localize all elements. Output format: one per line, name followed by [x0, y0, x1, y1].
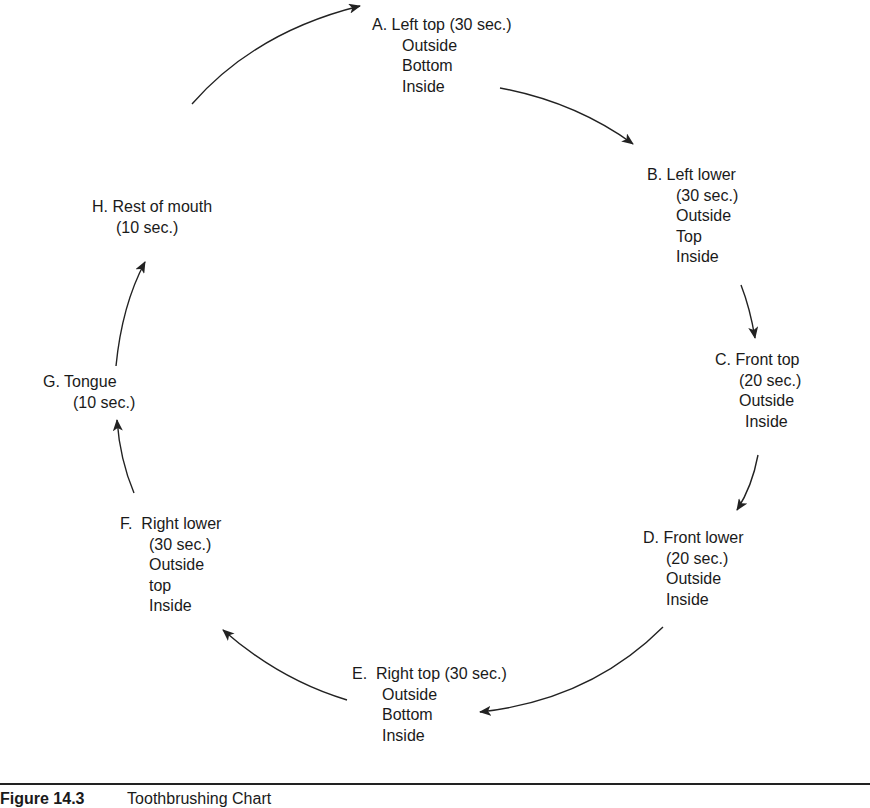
node-c-title: C. Front top — [715, 350, 801, 371]
node-b-step: Inside — [647, 247, 738, 268]
figure-title: Toothbrushing Chart — [127, 790, 271, 807]
node-a-step: Outside — [372, 36, 512, 57]
node-e-right-top: E. Right top (30 sec.) Outside Bottom In… — [352, 664, 507, 746]
arrow-c-to-d — [737, 455, 758, 510]
node-b-title: B. Left lower — [647, 165, 738, 186]
node-b-step: Outside — [647, 206, 738, 227]
node-d-step: Inside — [643, 590, 743, 611]
arrow-h-to-a — [192, 6, 360, 104]
node-h-duration: (10 sec.) — [92, 218, 212, 239]
node-c-duration: (20 sec.) — [715, 371, 801, 392]
node-f-duration: (30 sec.) — [120, 535, 221, 556]
node-f-step: Inside — [120, 596, 221, 617]
caption-rule — [0, 783, 870, 785]
node-g-title: G. Tongue — [43, 372, 135, 393]
figure-label: Figure 14.3 — [0, 790, 84, 807]
node-a-step: Bottom — [372, 56, 512, 77]
node-e-step: Outside — [352, 685, 507, 706]
node-c-front-top: C. Front top (20 sec.) Outside Inside — [715, 350, 801, 432]
node-h-title: H. Rest of mouth — [92, 197, 212, 218]
node-c-step: Inside — [715, 412, 801, 433]
node-d-duration: (20 sec.) — [643, 549, 743, 570]
node-f-title: F. Right lower — [120, 514, 221, 535]
arrow-a-to-b — [500, 88, 633, 144]
node-f-step: Outside — [120, 555, 221, 576]
figure-caption: Figure 14.3 Toothbrushing Chart — [0, 790, 271, 808]
arrow-d-to-e — [480, 627, 663, 712]
node-f-right-lower: F. Right lower (30 sec.) Outside top Ins… — [120, 514, 221, 617]
node-d-step: Outside — [643, 569, 743, 590]
node-c-step: Outside — [715, 391, 801, 412]
node-d-title: D. Front lower — [643, 528, 743, 549]
node-e-step: Bottom — [352, 705, 507, 726]
node-d-front-lower: D. Front lower (20 sec.) Outside Inside — [643, 528, 743, 610]
node-e-title: E. Right top (30 sec.) — [352, 664, 507, 685]
node-g-duration: (10 sec.) — [43, 393, 135, 414]
node-h-rest-of-mouth: H. Rest of mouth (10 sec.) — [92, 197, 212, 238]
arrow-e-to-f — [223, 630, 347, 700]
node-e-step: Inside — [352, 726, 507, 747]
node-b-duration: (30 sec.) — [647, 186, 738, 207]
arrow-b-to-c — [741, 285, 755, 338]
arrow-f-to-g — [117, 420, 134, 493]
node-b-step: Top — [647, 227, 738, 248]
node-a-left-top: A. Left top (30 sec.) Outside Bottom Ins… — [372, 15, 512, 97]
node-a-step: Inside — [372, 77, 512, 98]
node-f-step: top — [120, 576, 221, 597]
node-a-title: A. Left top (30 sec.) — [372, 15, 512, 36]
arrow-g-to-h — [116, 262, 145, 366]
node-g-tongue: G. Tongue (10 sec.) — [43, 372, 135, 413]
node-b-left-lower: B. Left lower (30 sec.) Outside Top Insi… — [647, 165, 738, 268]
